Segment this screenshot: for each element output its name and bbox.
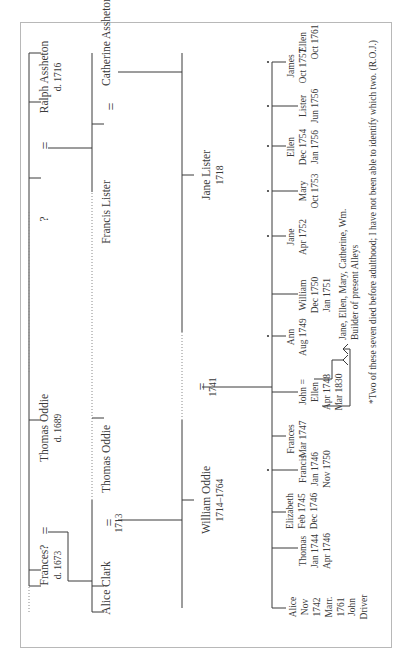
child-name: Ellen xyxy=(298,18,310,66)
child-name: James xyxy=(286,41,298,91)
child-name: William xyxy=(298,270,310,320)
ancestor-frances-dates: d. 1673 xyxy=(53,530,64,600)
child-detail: Jan 1746 xyxy=(310,444,322,494)
child-detail: 1761 xyxy=(336,592,348,622)
jane-lister-dates: 1718 xyxy=(215,135,226,215)
child-name: Elizabeth xyxy=(285,486,297,536)
family-tree-chart: ? = Ralph Assheton d. 1716 Frances? d. 1… xyxy=(0,0,408,672)
child-frances: Frances Mar 1747 xyxy=(286,414,310,464)
child-jane: Jane Apr 1752 xyxy=(286,212,310,262)
child-detail: Ellen xyxy=(310,370,322,414)
child-name: Frances xyxy=(286,414,298,464)
child-detail: John xyxy=(347,592,359,622)
child-detail: 1742 xyxy=(312,592,324,622)
child-detail: Apr 1746 xyxy=(322,526,334,576)
child-detail: Nov xyxy=(300,592,312,622)
child-detail: Oct 1753 xyxy=(310,166,322,216)
child-detail: Driver xyxy=(359,592,371,622)
catherine-assheton: Catherine Assheton xyxy=(100,0,113,106)
child-name: John = xyxy=(298,370,310,414)
william-oddie: William Oddie xyxy=(200,455,213,545)
ancestor-frances: Frances? xyxy=(38,530,51,600)
unknown-ancestor-marker: ? xyxy=(38,209,51,229)
child-detail: Dec 1750 xyxy=(310,270,322,320)
john-builder-note: Builder of present Alleys xyxy=(350,245,361,340)
child-name: Alice xyxy=(288,592,300,622)
child-mary: Mary Oct 1753 xyxy=(298,166,322,216)
child-john: John = Ellen Apr 1748 Mar 1830 xyxy=(298,370,346,414)
child-detail: Jun 1756 xyxy=(310,81,322,131)
child-detail: Apr 1748 xyxy=(322,370,334,414)
child-name: Mary xyxy=(298,166,310,216)
child-detail: Marr. xyxy=(324,592,336,622)
thomas-oddie: Thomas Oddie xyxy=(100,414,113,504)
footnote: *Two of these seven died before adulthoo… xyxy=(368,40,379,404)
jane-lister: Jane Lister xyxy=(200,135,213,215)
ancestor-thomas-oddie-sr-dates: d. 1689 xyxy=(53,378,64,478)
page: ? = Ralph Assheton d. 1716 Frances? d. 1… xyxy=(0,0,408,672)
child-alice: Alice Nov 1742 Marr. 1761 John Driver xyxy=(288,592,371,622)
marriage-symbol: = xyxy=(39,139,53,153)
ancestor-thomas-oddie-sr: Thomas Oddie xyxy=(38,378,51,478)
child-detail: Mar 1747 xyxy=(298,414,310,464)
ancestor-ralph-assheton-dates: d. 1716 xyxy=(53,22,64,132)
marriage-symbol: = xyxy=(39,524,53,538)
child-name: Ellen xyxy=(286,122,298,172)
child-name: Jane xyxy=(286,212,298,262)
alice-clark: Alice Clark xyxy=(100,548,113,628)
francis-lister: Francis Lister xyxy=(100,162,113,262)
child-detail: Jan 1751 xyxy=(322,270,334,320)
child-detail: Mar 1830 xyxy=(334,370,346,414)
ancestor-ralph-assheton: Ralph Assheton xyxy=(38,22,51,132)
child-ellen-2: Ellen Oct 1761 xyxy=(298,18,322,66)
john-children-note: Jane, Ellen, Mary, Catherine, Wm. xyxy=(338,209,349,340)
child-william: William Dec 1750 Jan 1751 xyxy=(298,270,334,320)
marriage-year-1713: 1713 xyxy=(114,511,125,535)
child-detail: Nov 1750 xyxy=(322,444,334,494)
child-name: Ann xyxy=(286,312,298,362)
marriage-year-1741: 1741 xyxy=(208,375,219,399)
child-detail: Oct 1761 xyxy=(310,18,322,66)
william-oddie-dates: 1714–1764 xyxy=(215,455,226,545)
child-detail: Apr 1752 xyxy=(298,212,310,262)
